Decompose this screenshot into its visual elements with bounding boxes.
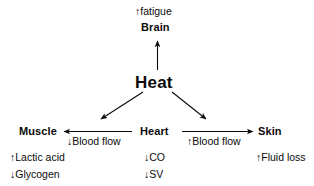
muscle-effect-lactic-acid: ↑Lactic acid — [10, 152, 65, 163]
edge-label-heart-to-muscle: ↓Blood flow — [67, 136, 121, 147]
muscle-effect-glycogen: ↓Glycogen — [10, 169, 60, 180]
heart-effect-sv: ↓SV — [144, 169, 163, 180]
node-heat: Heat — [135, 74, 173, 91]
edge-label-heart-to-skin: ↑Blood flow — [187, 136, 241, 147]
heart-effect-co: ↓CO — [144, 152, 165, 163]
brain-effect-fatigue: ↑fatigue — [135, 6, 172, 17]
node-heart: Heart — [140, 126, 169, 137]
node-muscle: Muscle — [19, 126, 57, 137]
heat-stress-flow-diagram: ↑fatigue Brain Heat Muscle ↑Lactic acid … — [0, 0, 314, 186]
node-brain: Brain — [141, 22, 170, 33]
arrow-heat-to-skin — [172, 92, 206, 119]
skin-effect-fluid-loss: ↑Fluid loss — [256, 152, 306, 163]
arrow-heat-to-muscle — [101, 92, 143, 119]
node-skin: Skin — [258, 126, 282, 137]
